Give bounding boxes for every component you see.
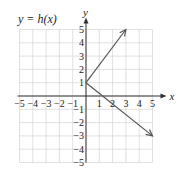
y-tick-label: 4 — [79, 37, 84, 48]
y-tick-label: 1 — [79, 77, 84, 88]
y-axis-label: y — [82, 6, 88, 18]
x-tick-label: −3 — [41, 98, 52, 109]
y-axis-arrow-icon — [84, 18, 89, 24]
y-tick-label: −2 — [73, 117, 84, 128]
x-tick-label: 3 — [123, 98, 128, 109]
y-tick-label: −3 — [73, 130, 84, 141]
y-tick-label: −5 — [73, 157, 84, 168]
x-tick-label: −2 — [54, 98, 65, 109]
x-tick-label: −5 — [14, 98, 25, 109]
x-tick-label: 5 — [150, 98, 155, 109]
y-tick-label: 3 — [79, 51, 84, 62]
y-tick-label: −4 — [73, 144, 84, 155]
x-tick-label: −4 — [27, 98, 38, 109]
x-axis-label: x — [169, 90, 175, 102]
y-tick-label: 2 — [79, 64, 84, 75]
y-tick-label: 5 — [79, 24, 84, 35]
x-tick-label: 1 — [97, 98, 102, 109]
plot-area: xy−5−4−3−2−11234554321−1−2−3−4−5 — [0, 0, 180, 170]
x-tick-label: 4 — [137, 98, 142, 109]
y-tick-label: −1 — [73, 104, 84, 115]
x-axis-arrow-icon — [161, 94, 167, 99]
